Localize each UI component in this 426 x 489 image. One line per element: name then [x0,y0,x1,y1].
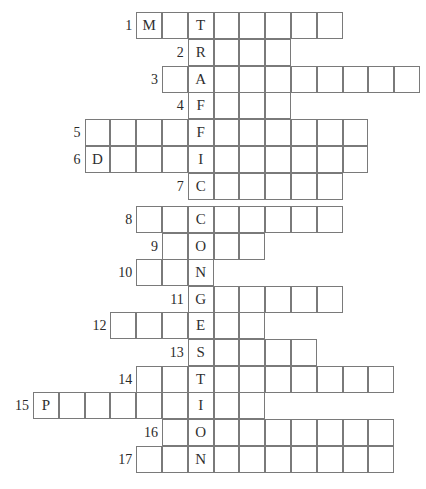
letter-cell[interactable] [214,66,240,93]
letter-cell[interactable] [265,92,291,119]
letter-cell[interactable] [136,206,162,233]
letter-cell[interactable] [110,312,136,339]
letter-cell[interactable] [291,419,317,446]
letter-cell[interactable] [214,173,240,200]
letter-cell[interactable] [162,206,188,233]
letter-cell[interactable] [343,146,369,173]
letter-cell[interactable] [291,446,317,473]
letter-cell[interactable] [85,119,111,146]
letter-cell[interactable] [136,259,162,286]
letter-cell[interactable] [239,233,265,260]
letter-cell[interactable] [162,12,188,39]
letter-cell[interactable] [214,39,240,66]
letter-cell[interactable] [162,419,188,446]
letter-cell[interactable] [394,66,420,93]
key-letter-cell[interactable]: O [188,233,214,260]
key-letter-cell[interactable]: T [188,366,214,393]
letter-cell[interactable] [265,119,291,146]
letter-cell[interactable] [343,119,369,146]
letter-cell[interactable] [214,312,240,339]
letter-cell[interactable] [214,233,240,260]
letter-cell[interactable] [317,173,343,200]
letter-cell[interactable] [136,312,162,339]
letter-cell[interactable] [368,366,394,393]
letter-cell[interactable] [317,66,343,93]
key-letter-cell[interactable]: R [188,39,214,66]
letter-cell[interactable] [239,119,265,146]
letter-cell[interactable]: M [136,12,162,39]
letter-cell[interactable]: D [85,146,111,173]
key-letter-cell[interactable]: E [188,312,214,339]
key-letter-cell[interactable]: C [188,206,214,233]
letter-cell[interactable] [239,39,265,66]
letter-cell[interactable] [136,146,162,173]
key-letter-cell[interactable]: I [188,146,214,173]
letter-cell[interactable] [239,206,265,233]
letter-cell[interactable] [239,286,265,313]
letter-cell[interactable] [162,119,188,146]
letter-cell[interactable] [214,339,240,366]
key-letter-cell[interactable]: S [188,339,214,366]
letter-cell[interactable] [239,173,265,200]
letter-cell[interactable] [291,173,317,200]
letter-cell[interactable] [110,392,136,419]
letter-cell[interactable] [317,206,343,233]
letter-cell[interactable] [368,446,394,473]
letter-cell[interactable] [239,446,265,473]
letter-cell[interactable] [317,286,343,313]
letter-cell[interactable] [239,66,265,93]
letter-cell[interactable] [291,66,317,93]
letter-cell[interactable] [162,366,188,393]
key-letter-cell[interactable]: N [188,446,214,473]
letter-cell[interactable] [291,339,317,366]
letter-cell[interactable] [110,146,136,173]
letter-cell[interactable] [317,146,343,173]
letter-cell[interactable] [162,66,188,93]
letter-cell[interactable] [239,392,265,419]
letter-cell[interactable] [214,206,240,233]
letter-cell[interactable] [265,173,291,200]
letter-cell[interactable]: P [33,392,59,419]
letter-cell[interactable] [239,339,265,366]
letter-cell[interactable] [239,12,265,39]
letter-cell[interactable] [265,339,291,366]
letter-cell[interactable] [136,392,162,419]
letter-cell[interactable] [239,419,265,446]
letter-cell[interactable] [59,392,85,419]
letter-cell[interactable] [214,12,240,39]
key-letter-cell[interactable]: T [188,12,214,39]
key-letter-cell[interactable]: A [188,66,214,93]
letter-cell[interactable] [162,312,188,339]
letter-cell[interactable] [214,119,240,146]
letter-cell[interactable] [291,119,317,146]
letter-cell[interactable] [162,233,188,260]
letter-cell[interactable] [265,66,291,93]
key-letter-cell[interactable]: C [188,173,214,200]
letter-cell[interactable] [162,392,188,419]
letter-cell[interactable] [317,446,343,473]
letter-cell[interactable] [343,446,369,473]
letter-cell[interactable] [239,312,265,339]
letter-cell[interactable] [162,446,188,473]
letter-cell[interactable] [291,12,317,39]
key-letter-cell[interactable]: N [188,259,214,286]
letter-cell[interactable] [239,92,265,119]
letter-cell[interactable] [214,419,240,446]
letter-cell[interactable] [343,419,369,446]
letter-cell[interactable] [317,119,343,146]
letter-cell[interactable] [214,146,240,173]
letter-cell[interactable] [291,146,317,173]
letter-cell[interactable] [317,366,343,393]
letter-cell[interactable] [265,419,291,446]
letter-cell[interactable] [291,286,317,313]
letter-cell[interactable] [136,446,162,473]
letter-cell[interactable] [214,92,240,119]
letter-cell[interactable] [368,66,394,93]
letter-cell[interactable] [265,146,291,173]
letter-cell[interactable] [214,366,240,393]
letter-cell[interactable] [85,392,111,419]
letter-cell[interactable] [265,206,291,233]
letter-cell[interactable] [162,146,188,173]
letter-cell[interactable] [265,446,291,473]
letter-cell[interactable] [343,66,369,93]
